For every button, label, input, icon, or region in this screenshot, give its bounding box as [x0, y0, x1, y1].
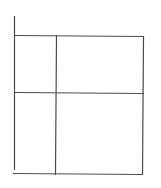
middle-horizontal-line	[15, 93, 144, 94]
inner-vertical-line	[56, 36, 57, 175]
bottom-horizontal-line	[14, 174, 143, 175]
grid-diagram	[0, 0, 161, 188]
right-vertical-line	[143, 37, 144, 175]
grid-diagram-svg	[0, 0, 161, 188]
top-horizontal-line	[15, 36, 144, 37]
